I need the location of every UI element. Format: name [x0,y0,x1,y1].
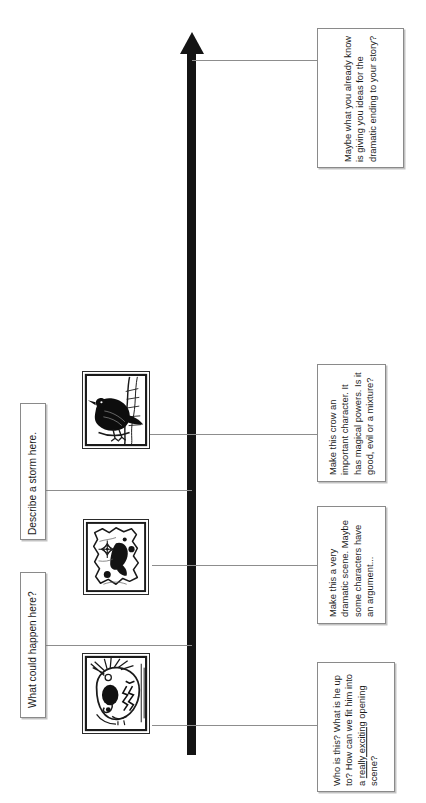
connector-crow-note [150,434,317,435]
face-illustration[interactable] [82,653,150,734]
happen-label-note[interactable]: What could happen here? [20,572,46,718]
connector-ending-note [192,60,317,61]
map-illustration[interactable] [83,519,149,595]
happen-label-text: What could happen here? [26,582,39,708]
ending-note[interactable]: Maybe what you already know is giving yo… [317,28,404,168]
map-illustration-drawing [84,520,148,594]
connector-storm-label [46,490,192,491]
storm-label-note[interactable]: Describe a storm here. [20,403,46,540]
dramatic-scene-note-text: Make this a very dramatic scene. Maybe s… [327,513,377,617]
crow-illustration[interactable] [82,371,150,449]
ending-note-text: Maybe what you already know is giving yo… [342,34,379,162]
opening-scene-note-text: Who is this? What is he up to? How can w… [331,668,381,786]
opening-scene-note-text-underlined: really exciting [356,721,367,778]
story-timeline-canvas: Describe a storm here. What could happen… [0,0,426,803]
opening-scene-note[interactable]: Who is this? What is he up to? How can w… [317,662,395,792]
connector-opening-scene-note [152,725,317,726]
connector-dramatic-scene-note [152,565,317,566]
dramatic-scene-note[interactable]: Make this a very dramatic scene. Maybe s… [317,506,386,624]
crow-note-text: Make this crow an important character. I… [327,371,377,475]
connector-happen-label [46,645,192,646]
arrow-shaft [187,52,196,755]
face-illustration-drawing [83,654,149,733]
storm-label-text: Describe a storm here. [26,409,39,535]
arrow-head-icon [180,32,204,54]
crow-illustration-drawing [83,372,149,448]
crow-note[interactable]: Make this crow an important character. I… [317,364,386,482]
